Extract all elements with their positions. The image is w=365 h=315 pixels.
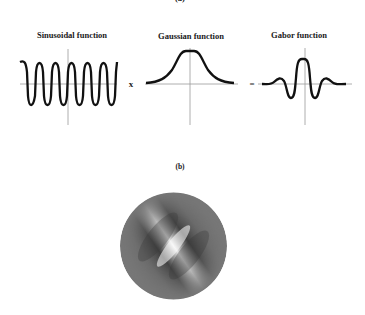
gabor-curve — [262, 59, 346, 98]
gabor-plot — [258, 48, 352, 125]
sinusoidal-plot — [20, 49, 117, 125]
sinusoid-curve — [20, 61, 117, 105]
gabor-patch-image — [120, 192, 227, 300]
gaussian-plot — [145, 48, 238, 125]
function-plots — [0, 0, 365, 170]
panel-b-label: (b) — [175, 162, 184, 171]
gabor-patch-graphic — [120, 192, 227, 300]
